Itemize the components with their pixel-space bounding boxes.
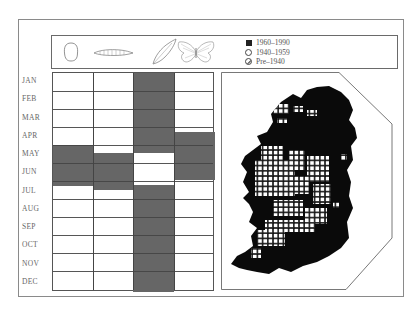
month-label: JUN: [22, 163, 37, 181]
month-label: JAN: [22, 72, 37, 90]
ireland-map-svg: [221, 72, 393, 290]
adult-butterfly-icon: [175, 38, 217, 66]
pupa-period-bar-winter: [133, 73, 174, 153]
month-label: MAR: [22, 109, 40, 127]
legend-item-1940-1959: 1940–1959: [245, 48, 290, 58]
month-label: JUL: [22, 182, 36, 200]
row-divider: [53, 271, 213, 272]
month-label: NOV: [22, 255, 39, 273]
row-divider: [53, 235, 213, 236]
larva-icon: [92, 38, 134, 66]
legend-item-1960-1990: 1960–1990: [245, 38, 290, 48]
pupa-period-bar-autumn: [133, 185, 174, 292]
month-label: OCT: [22, 236, 38, 254]
month-label: FEB: [22, 90, 37, 108]
month-label: APR: [22, 127, 38, 145]
month-label: DEC: [22, 273, 38, 291]
period-legend: 1960–1990 1940–1959 Pre–1940: [245, 38, 290, 67]
filled-square-icon: [246, 40, 252, 46]
egg-icon: [62, 38, 80, 66]
row-divider: [53, 181, 213, 182]
larva-period-bar: [93, 153, 133, 190]
month-label: AUG: [22, 200, 39, 218]
distribution-map: [221, 72, 393, 290]
row-divider: [53, 145, 213, 146]
row-divider: [53, 253, 213, 254]
legend-item-pre-1940: Pre–1940: [245, 57, 290, 67]
row-divider: [53, 199, 213, 200]
month-label: MAY: [22, 145, 40, 163]
row-divider: [53, 109, 213, 110]
adult-period-bar: [174, 132, 215, 180]
row-divider: [53, 127, 213, 128]
open-circle-icon: [245, 49, 252, 56]
month-label: SEP: [22, 218, 36, 236]
stage-legend-box: 1960–1990 1940–1959 Pre–1940: [51, 35, 398, 69]
egg-period-bar: [53, 145, 93, 186]
row-divider: [53, 91, 213, 92]
row-divider: [53, 217, 213, 218]
slashed-circle-icon: [245, 58, 252, 65]
phenology-grid: [52, 72, 214, 291]
row-divider: [53, 163, 213, 164]
